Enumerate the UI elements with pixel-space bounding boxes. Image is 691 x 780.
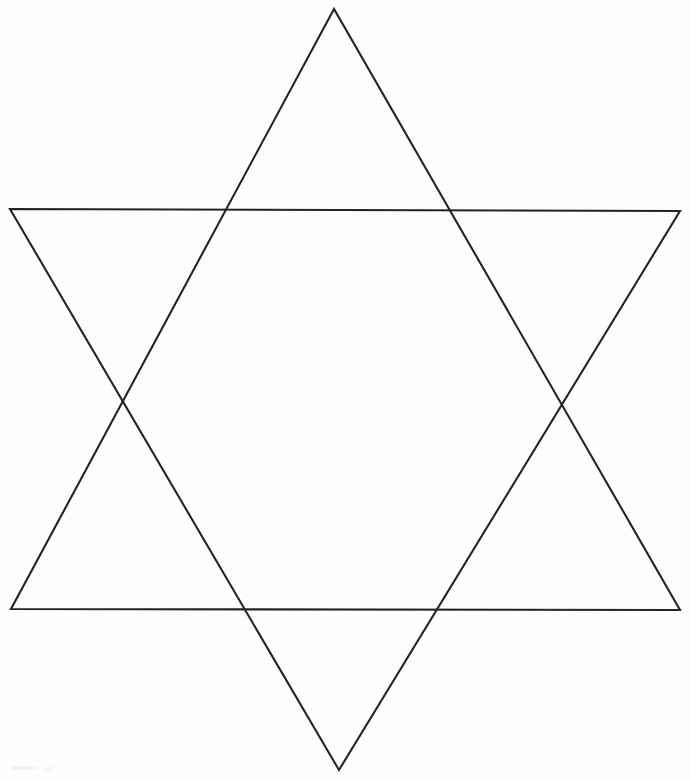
drawing-background bbox=[0, 0, 691, 780]
figure-canvas bbox=[0, 0, 691, 780]
hexagram-drawing bbox=[0, 0, 691, 780]
